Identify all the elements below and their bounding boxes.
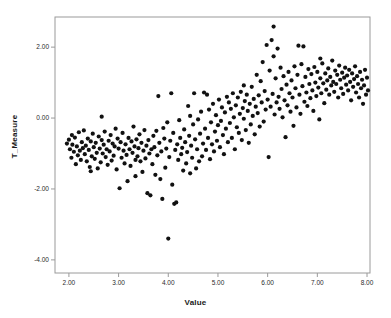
data-point xyxy=(197,159,201,163)
data-point xyxy=(126,136,130,140)
data-point xyxy=(139,141,143,145)
data-point xyxy=(187,134,191,138)
data-point xyxy=(325,78,329,82)
data-point xyxy=(112,154,116,158)
data-point xyxy=(201,141,205,145)
data-point xyxy=(188,171,192,175)
data-point xyxy=(339,86,343,90)
data-point xyxy=(196,117,200,121)
data-point xyxy=(332,90,336,94)
data-point xyxy=(92,145,96,149)
data-point xyxy=(293,86,297,90)
data-point xyxy=(338,78,342,82)
data-point xyxy=(295,73,299,77)
data-point xyxy=(213,129,217,133)
data-point xyxy=(72,150,76,154)
data-point xyxy=(190,156,194,160)
data-point xyxy=(225,95,229,99)
data-point xyxy=(153,173,157,177)
data-point xyxy=(274,100,278,104)
data-point xyxy=(151,134,155,138)
data-point xyxy=(119,156,123,160)
data-point xyxy=(135,154,139,158)
data-point xyxy=(82,128,86,132)
data-point xyxy=(169,91,173,95)
data-point xyxy=(205,93,209,97)
data-point xyxy=(360,78,364,82)
data-point xyxy=(216,123,220,127)
data-point xyxy=(163,166,167,170)
y-axis-title: T_Measure xyxy=(10,102,19,172)
data-point xyxy=(269,105,273,109)
data-point xyxy=(191,122,195,126)
data-point xyxy=(240,138,244,142)
data-point xyxy=(349,98,353,102)
data-point xyxy=(247,141,251,145)
data-point xyxy=(229,107,233,111)
y-tick-label: -4.00 xyxy=(7,256,49,263)
data-point xyxy=(120,131,124,135)
data-point xyxy=(186,104,190,108)
y-tick-label: 0.00 xyxy=(7,114,49,121)
data-point xyxy=(175,142,179,146)
data-point xyxy=(221,133,225,137)
data-point xyxy=(80,140,84,144)
data-point xyxy=(159,149,163,153)
data-point xyxy=(138,159,142,163)
x-axis-title: Value xyxy=(0,298,391,307)
data-point xyxy=(366,88,370,92)
x-tick-label: 4.00 xyxy=(148,279,188,286)
data-point xyxy=(220,105,224,109)
x-tick-label: 6.00 xyxy=(248,279,288,286)
data-point xyxy=(271,92,275,96)
data-point xyxy=(301,44,305,48)
data-point xyxy=(321,81,325,85)
data-point xyxy=(192,91,196,95)
data-point xyxy=(95,151,99,155)
data-point xyxy=(102,143,106,147)
data-point xyxy=(67,138,71,142)
data-point xyxy=(143,156,147,160)
data-point xyxy=(167,155,171,159)
data-point xyxy=(152,145,156,149)
data-point xyxy=(155,153,159,157)
data-point xyxy=(304,90,308,94)
data-point xyxy=(182,127,186,131)
data-point xyxy=(267,155,271,159)
data-point xyxy=(115,167,119,171)
data-point xyxy=(344,83,348,87)
data-point xyxy=(305,104,309,108)
data-point xyxy=(257,93,261,97)
data-point xyxy=(195,147,199,151)
data-point xyxy=(68,147,72,151)
data-point xyxy=(193,137,197,141)
data-point xyxy=(234,103,238,107)
data-point xyxy=(222,152,226,156)
y-tick-label: -2.00 xyxy=(7,185,49,192)
data-point xyxy=(133,158,137,162)
data-point xyxy=(70,143,74,147)
data-point xyxy=(266,98,270,102)
data-point xyxy=(314,94,318,98)
data-point xyxy=(315,70,319,74)
data-point xyxy=(164,146,168,150)
data-point xyxy=(160,197,164,201)
data-point xyxy=(96,166,100,170)
data-point xyxy=(108,149,112,153)
data-point xyxy=(330,59,334,63)
x-tick-label: 8.00 xyxy=(347,279,387,286)
data-point xyxy=(256,111,260,115)
data-point xyxy=(136,146,140,150)
data-point xyxy=(322,101,326,105)
data-point xyxy=(245,93,249,97)
data-point xyxy=(296,44,300,48)
data-point xyxy=(109,133,113,137)
data-point xyxy=(364,93,368,97)
data-point xyxy=(335,73,339,77)
data-point xyxy=(365,76,369,80)
data-point xyxy=(309,72,313,76)
data-point xyxy=(348,80,352,84)
data-point xyxy=(310,88,314,92)
data-point xyxy=(162,137,166,141)
data-point xyxy=(298,112,302,116)
